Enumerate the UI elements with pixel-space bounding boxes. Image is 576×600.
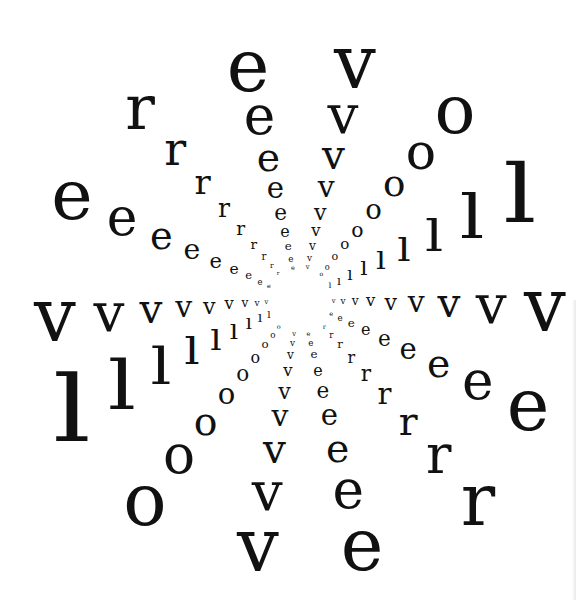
letter-v: v [408,287,425,317]
letter-v: v [203,294,216,316]
letter-l: l [151,342,172,392]
letter-r: r [348,350,356,366]
letter-o: o [383,166,405,203]
letter-o: o [236,363,249,385]
letter-o: o [325,262,330,270]
letter-e: e [427,344,450,383]
letter-e: e [308,339,313,348]
letter-e: e [274,203,287,225]
letter-v: v [476,277,507,332]
letter-r: r [251,238,258,252]
letter-r: r [262,252,267,262]
letter-l: l [184,334,199,371]
letter-v: v [175,292,192,322]
letter-l: l [459,188,484,247]
letter-e: e [285,241,292,253]
letter-v: v [278,380,291,402]
letter-v: v [34,278,76,352]
letter-l: l [329,282,332,289]
letter-e: e [333,464,365,517]
letter-v: v [314,201,327,223]
letter-e: e [291,265,295,271]
letter-r: r [461,464,495,536]
letter-e: e [361,322,370,338]
letter-o: o [123,464,166,536]
letter-o: o [194,402,218,441]
letter-e: e [257,277,262,286]
letter-v: v [292,330,296,337]
letter-v: v [524,268,566,342]
letter-l: l [376,249,386,273]
letter-e: e [378,328,391,350]
letter-v: v [139,289,162,330]
letter-e: e [267,174,284,203]
letter-r: r [195,166,211,200]
letter-o: o [250,350,260,366]
letter-l: l [246,317,252,332]
letter-o: o [340,238,349,253]
letter-l: l [503,155,536,235]
letter-e: e [267,282,271,288]
letter-v: v [241,297,248,309]
letter-r: r [277,271,280,277]
letter-r: r [125,77,155,139]
letter-r: r [164,127,186,173]
letter-e: e [288,255,293,264]
letter-r: r [399,402,418,441]
letter-l: l [398,234,411,266]
letter-l: l [267,311,270,319]
letter-r: r [218,196,230,221]
letter-e: e [329,311,333,317]
letter-v: v [306,264,310,271]
letter-l: l [210,327,221,355]
letter-r: r [337,339,343,351]
typographic-artwork: rrrrrrrrreeeeeeeeevvvvvvvvvooooooooollll… [0,0,576,600]
letter-e: e [313,363,322,379]
page-edge-shadow [572,300,576,600]
letter-e: e [326,429,349,468]
letter-o: o [163,429,195,482]
letter-o: o [351,219,363,239]
letter-v: v [311,223,320,239]
letter-e: e [51,160,92,230]
letter-o: o [270,331,275,340]
letter-e: e [400,335,417,364]
letter-v: v [340,296,345,305]
letter-o: o [319,271,323,277]
letter-o: o [218,380,236,409]
letter-v: v [254,298,259,307]
letter-o: o [262,339,269,351]
letter-r: r [323,324,326,330]
letter-e: e [310,349,317,361]
letter-r: r [236,220,245,239]
letter-v: v [225,296,234,312]
letter-e: e [321,402,338,431]
letter-v: v [265,299,269,306]
letter-o: o [277,324,281,330]
letter-v: v [272,401,289,431]
letter-r: r [329,331,333,340]
letter-r: r [378,380,392,409]
letter-l: l [347,270,352,283]
letter-v: v [438,283,461,324]
letter-v: v [290,339,295,348]
letter-v: v [283,363,292,379]
letter-e: e [230,262,239,278]
letter-v: v [332,297,336,304]
letter-o: o [365,196,382,224]
letter-o: o [332,252,339,263]
letter-e: e [183,236,200,264]
letter-e: e [245,271,252,283]
letter-v: v [384,291,397,313]
letter-l: l [360,261,367,279]
letter-v: v [366,293,375,309]
letter-e: e [337,314,342,323]
letter-r: r [361,363,371,385]
letter-v: v [352,295,359,307]
letter-v: v [318,172,335,202]
letter-e: e [107,192,138,244]
letter-o: o [435,76,476,144]
letter-l: l [108,352,136,420]
letter-v: v [287,349,294,361]
letter-v: v [93,284,124,339]
